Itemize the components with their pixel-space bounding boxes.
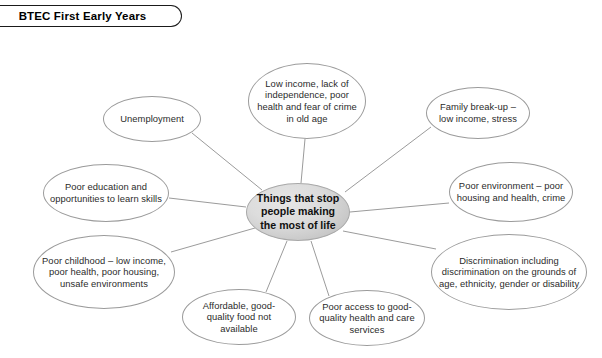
node-poor-environment[interactable]: Poor environment – poor housing and heal… (449, 162, 573, 222)
diagram-page: BTEC First Early Years UnemploymentLow i… (0, 0, 602, 358)
node-unemployment[interactable]: Unemployment (103, 96, 201, 142)
node-label-low-income-old-age: Low income, lack of independence, poor h… (249, 78, 365, 124)
node-label-affordable-food: Affordable, good-quality food not availa… (183, 300, 295, 335)
connector-line-poor-childhood (171, 228, 255, 252)
node-poor-education[interactable]: Poor education and opportunities to lear… (43, 164, 169, 222)
node-label-poor-access-health: Poor access to good-quality health and c… (310, 301, 424, 336)
node-label-poor-education: Poor education and opportunities to lear… (44, 181, 168, 204)
node-poor-access-health[interactable]: Poor access to good-quality health and c… (309, 290, 425, 346)
connector-line-affordable-food (266, 241, 287, 292)
connector-line-discrimination (343, 231, 436, 249)
node-discrimination[interactable]: Discrimination including discrimination … (431, 234, 587, 310)
node-label-family-break-up: Family break-up – low income, stress (427, 101, 529, 124)
connector-line-poor-education (169, 198, 246, 207)
node-label-discrimination: Discrimination including discrimination … (432, 255, 586, 290)
node-family-break-up[interactable]: Family break-up – low income, stress (426, 87, 530, 139)
connector-line-family-break-up (345, 127, 431, 192)
node-affordable-food[interactable]: Affordable, good-quality food not availa… (182, 289, 296, 345)
node-label-poor-childhood: Poor childhood – low income, poor health… (34, 255, 174, 290)
center-node-label: Things that stop people making the most … (247, 192, 349, 232)
node-poor-childhood[interactable]: Poor childhood – low income, poor health… (33, 235, 175, 309)
connector-line-unemployment (192, 133, 262, 190)
connector-line-low-income-old-age (301, 139, 305, 183)
node-label-unemployment: Unemployment (114, 113, 190, 125)
connector-line-poor-environment (350, 203, 449, 212)
node-low-income-old-age[interactable]: Low income, lack of independence, poor h… (248, 63, 366, 139)
connector-line-poor-access-health (311, 241, 329, 296)
center-node[interactable]: Things that stop people making the most … (246, 183, 350, 241)
mind-map-diagram: UnemploymentLow income, lack of independ… (0, 0, 602, 358)
node-label-poor-environment: Poor environment – poor housing and heal… (450, 180, 572, 203)
